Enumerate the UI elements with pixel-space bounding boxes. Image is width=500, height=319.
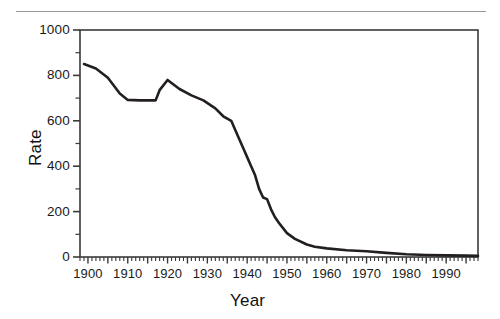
y-tick-label: 0 (24, 249, 70, 264)
y-axis-title: Rate (26, 129, 46, 166)
x-tick-label: 1990 (422, 266, 470, 281)
data-series-group (84, 64, 478, 256)
y-tick-label: 600 (24, 113, 70, 128)
y-tick-label: 200 (24, 204, 70, 219)
y-axis-ticks (73, 30, 80, 257)
x-axis-ticks (80, 257, 478, 264)
x-axis-title: Year (230, 291, 265, 311)
y-tick-label: 800 (24, 67, 70, 82)
y-tick-label: 1000 (24, 22, 70, 37)
cut-off-caption (14, 314, 474, 319)
figure-root: 02004006008001000 1900191019201930194019… (0, 0, 500, 319)
